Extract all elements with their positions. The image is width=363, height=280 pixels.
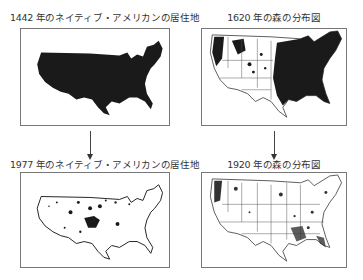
panel-title-1620-forest: 1620 年の森の分布図	[201, 10, 347, 24]
map-1620-forest	[201, 28, 347, 126]
panel-title-1920-forest: 1920 年の森の分布図	[201, 157, 347, 171]
us-forest-map-icon	[202, 173, 346, 267]
us-map-outline-icon	[21, 173, 169, 267]
panel-title-1442-native: 1442 年のネイティブ・アメリカンの居住地	[10, 10, 180, 24]
us-forest-map-icon	[202, 29, 346, 125]
panel-title-1977-native: 1977 年のネイティブ・アメリカンの居住地	[10, 157, 180, 171]
us-map-filled-icon	[21, 29, 169, 125]
map-1977-native-american	[20, 172, 170, 268]
map-1442-native-american	[20, 28, 170, 126]
map-1920-forest	[201, 172, 347, 268]
